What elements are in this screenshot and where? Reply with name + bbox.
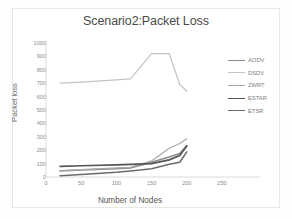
legend-item-etsr[interactable]: ETSR [228,104,286,117]
legend-item-zwrt[interactable]: ZWRT [228,79,286,92]
legend-label: ETSR [248,108,263,114]
legend-item-aodv[interactable]: AODV [228,54,286,67]
legend-label: ZWRT [248,82,265,88]
legend-item-estar[interactable]: ESTAR [228,92,286,105]
legend-label: AODV [248,57,264,63]
legend-swatch-icon [228,98,245,99]
legend-item-dsdv[interactable]: DSDV [228,67,286,80]
series-line-etsr [60,152,187,176]
legend-swatch-icon [228,72,245,73]
legend-swatch-icon [228,60,245,61]
legend-swatch-icon [228,110,245,111]
chart-legend: AODVDSDVZWRTESTARETSR [228,54,286,117]
legend-swatch-icon [228,85,245,86]
legend-label: DSDV [248,70,264,76]
series-line-dsdv [60,54,187,92]
legend-label: ESTAR [248,95,267,101]
chart-figure: Scenario2:Packet Loss Packet loss 010020… [0,0,292,219]
